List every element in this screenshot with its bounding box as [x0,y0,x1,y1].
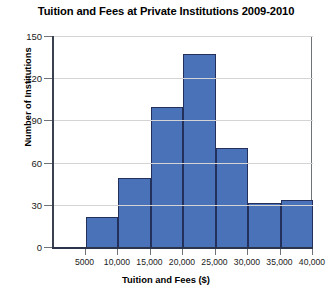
y-axis-tick [44,36,52,37]
x-axis-tick [280,249,281,255]
histogram-bar [248,203,281,248]
y-axis-tick-label: 120 [2,73,42,84]
histogram-chart: Tuition and Fees at Private Institutions… [0,0,332,297]
x-axis-title: Tuition and Fees ($) [0,274,332,285]
gridline [53,36,313,37]
x-axis-tick [85,249,86,255]
x-axis-tick [247,249,248,255]
y-axis-tick [44,163,52,164]
x-axis-tick-label: 15,000 [136,257,162,267]
x-axis-tick [312,249,313,255]
y-axis-tick-label: 90 [2,115,42,126]
y-axis-line [52,36,54,249]
gridline [53,205,313,206]
histogram-bar [183,54,216,248]
chart-title: Tuition and Fees at Private Institutions… [0,5,332,17]
gridline [53,120,313,121]
gridline [53,163,313,164]
y-axis-tick-label: 60 [2,157,42,168]
x-axis-tick [182,249,183,255]
x-axis-tick [150,249,151,255]
x-axis-tick-label: 25,000 [201,257,227,267]
x-axis-tick-label: 40,000 [299,257,325,267]
y-axis-tick-label: 0 [2,242,42,253]
x-axis-tick-label: 35,000 [266,257,292,267]
y-axis-tick [44,78,52,79]
x-axis-tick-label: 30,000 [234,257,260,267]
plot-area [52,36,312,248]
gridline [53,78,313,79]
x-axis-tick-label: 10,000 [104,257,130,267]
x-axis-tick-label: 20,000 [169,257,195,267]
x-axis-tick [215,249,216,255]
y-axis-tick-label: 150 [2,31,42,42]
histogram-bar [86,217,119,248]
y-axis-tick [44,120,52,121]
y-axis-tick-label: 30 [2,199,42,210]
y-axis-tick [44,205,52,206]
y-axis-tick [44,247,52,248]
histogram-bar [151,107,184,248]
x-axis-tick [117,249,118,255]
bars-layer [53,37,313,248]
histogram-bar [118,178,151,248]
x-axis-tick-label: 5000 [75,257,94,267]
histogram-bar [281,200,314,248]
